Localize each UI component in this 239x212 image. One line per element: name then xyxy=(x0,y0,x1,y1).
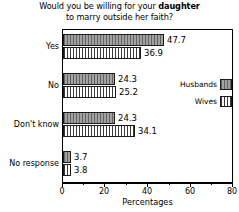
bar-value-no-response-wives: 3.8 xyxy=(74,164,88,176)
chart-title-line2: to marry outside her faith? xyxy=(66,12,173,22)
y-axis-category-labels: Yes No Don't know No response xyxy=(0,29,59,183)
bar-dont-know-wives xyxy=(63,125,135,137)
bar-yes-wives xyxy=(63,47,141,59)
bar-chart: Would you be willing for your daughter t… xyxy=(0,0,239,212)
bar-yes-husbands xyxy=(63,34,164,46)
bar-no-response-husbands xyxy=(63,151,71,163)
bar-dont-know-husbands xyxy=(63,112,115,124)
x-tick-label-20: 20 xyxy=(92,187,116,196)
x-tick-minor-10 xyxy=(83,183,84,185)
bar-value-dont-know-husbands: 24.3 xyxy=(118,112,137,124)
bar-value-no-response-husbands: 3.7 xyxy=(74,151,88,163)
x-tick-label-60: 60 xyxy=(178,187,202,196)
x-axis-title: Percentages xyxy=(62,197,233,207)
chart-title-line1-pre: Would you be willing for your xyxy=(39,1,158,11)
bar-no-wives xyxy=(63,86,116,98)
legend: Husbands Wives xyxy=(168,78,232,112)
y-axis-label-dont-know: Don't know xyxy=(0,120,59,129)
legend-item-husbands: Husbands xyxy=(168,78,232,91)
bar-value-no-wives: 25.2 xyxy=(119,86,138,98)
legend-swatch-wives-icon xyxy=(220,96,232,107)
x-tick-minor-50 xyxy=(169,183,170,185)
y-axis-label-yes: Yes xyxy=(0,42,59,51)
x-tick-minor-30 xyxy=(126,183,127,185)
legend-swatch-husbands-icon xyxy=(220,79,232,90)
y-axis-label-no-response: No response xyxy=(0,159,59,168)
x-tick-label-80: 80 xyxy=(220,187,239,196)
bar-value-yes-husbands: 47.7 xyxy=(167,34,186,46)
bar-no-husbands xyxy=(63,73,115,85)
x-tick-label-0: 0 xyxy=(50,187,74,196)
legend-label-husbands: Husbands xyxy=(180,80,217,89)
x-tick-minor-70 xyxy=(211,183,212,185)
bar-value-dont-know-wives: 34.1 xyxy=(138,125,157,137)
x-tick-label-40: 40 xyxy=(135,187,159,196)
chart-title: Would you be willing for your daughter t… xyxy=(0,1,239,22)
legend-item-wives: Wives xyxy=(168,95,232,108)
bar-value-no-husbands: 24.3 xyxy=(118,73,137,85)
chart-title-emphasis: daughter xyxy=(158,1,200,11)
bar-no-response-wives xyxy=(63,164,71,176)
legend-label-wives: Wives xyxy=(195,97,217,106)
bar-value-yes-wives: 36.9 xyxy=(144,47,163,59)
y-axis-label-no: No xyxy=(0,81,59,90)
